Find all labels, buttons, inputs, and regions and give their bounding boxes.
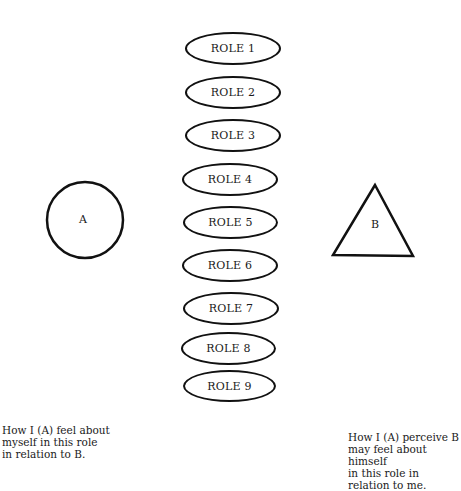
- circle-a-label: A: [79, 213, 87, 226]
- role-6-ellipse: ROLE 6: [182, 249, 278, 282]
- role-3-ellipse: ROLE 3: [185, 119, 281, 152]
- role-2-ellipse: ROLE 2: [185, 76, 281, 109]
- role-7-ellipse: ROLE 7: [183, 292, 279, 325]
- triangle-b-label: B: [371, 218, 379, 231]
- caption-left: How I (A) feel about myself in this role…: [2, 424, 152, 460]
- role-1-ellipse: ROLE 1: [185, 32, 281, 65]
- role-5-ellipse: ROLE 5: [183, 206, 278, 239]
- caption-right: How I (A) perceive B may feel about hims…: [348, 431, 461, 491]
- role-4-ellipse: ROLE 4: [182, 163, 278, 196]
- role-8-ellipse: ROLE 8: [181, 332, 276, 365]
- role-9-ellipse: ROLE 9: [183, 370, 276, 402]
